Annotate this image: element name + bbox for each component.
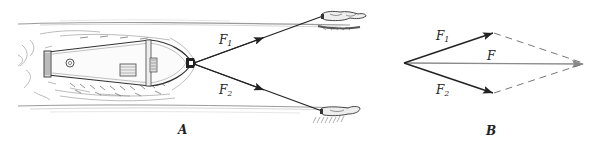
tow-animal-upper (318, 11, 366, 30)
parallelogram-side-lower (494, 64, 583, 93)
force-diagram-figure: F1 F2 A F1 F2 F B (0, 0, 595, 144)
caption-a: A (178, 124, 187, 136)
label-f1-panel-a: F1 (219, 34, 232, 48)
caption-b: B (486, 125, 496, 137)
parallelogram-side-upper (494, 33, 583, 63)
panel-a (18, 11, 366, 123)
label-f2-panel-b: F2 (436, 84, 449, 98)
resultant-vector (404, 63, 583, 64)
label-resultant-f: F (487, 50, 495, 62)
panel-b (404, 33, 583, 93)
tow-animal-lower (313, 107, 360, 124)
label-f1-panel-b: F1 (436, 30, 449, 44)
label-f2-panel-a: F2 (219, 84, 232, 98)
barge (44, 40, 196, 86)
tow-rope-2 (194, 64, 322, 111)
